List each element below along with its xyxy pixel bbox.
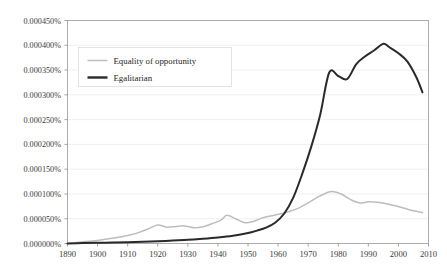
- chart-figure: 0.000450%0.000400%0.000350%0.000300%0.00…: [0, 0, 447, 271]
- x-axis-tick-labels: 1890190019101920193019401950196019701980…: [59, 244, 437, 260]
- x-tick-label: 1990: [360, 249, 377, 259]
- x-tick-label: 1940: [209, 249, 226, 259]
- y-tick-label: 0.000400%: [23, 41, 61, 50]
- legend-label-1: Equality of opportunity: [114, 56, 197, 66]
- y-tick-label: 0.000100%: [23, 190, 61, 199]
- y-tick-label: 0.000350%: [23, 66, 61, 75]
- x-tick-label: 1910: [119, 249, 136, 259]
- y-tick-label: 0.000300%: [23, 91, 61, 100]
- line-chart: 0.000450%0.000400%0.000350%0.000300%0.00…: [0, 0, 447, 271]
- x-tick-label: 1980: [330, 249, 347, 259]
- legend-box: [79, 48, 232, 87]
- x-tick-label: 1920: [149, 249, 166, 259]
- x-tick-label: 1970: [300, 249, 317, 259]
- x-tick-label: 1930: [179, 249, 196, 259]
- series-line-equality-of-opportunity: [68, 191, 423, 243]
- y-tick-label: 0.000000%: [23, 240, 61, 249]
- x-tick-label: 1960: [269, 249, 286, 259]
- x-tick-label: 1950: [239, 249, 256, 259]
- x-tick-label: 1900: [89, 249, 106, 259]
- y-tick-label: 0.000200%: [23, 140, 61, 149]
- y-tick-label: 0.000050%: [23, 215, 61, 224]
- x-tick-label: 2000: [390, 249, 407, 259]
- legend: Equality of opportunityEgalitarian: [79, 48, 232, 87]
- x-tick-label: 2010: [420, 249, 437, 259]
- x-tick-label: 1890: [59, 249, 76, 259]
- legend-label-2: Egalitarian: [114, 73, 153, 83]
- y-tick-label: 0.000250%: [23, 116, 61, 125]
- y-tick-label: 0.000150%: [23, 165, 61, 174]
- y-axis-tick-labels: 0.000450%0.000400%0.000350%0.000300%0.00…: [23, 17, 61, 249]
- y-tick-label: 0.000450%: [23, 17, 61, 26]
